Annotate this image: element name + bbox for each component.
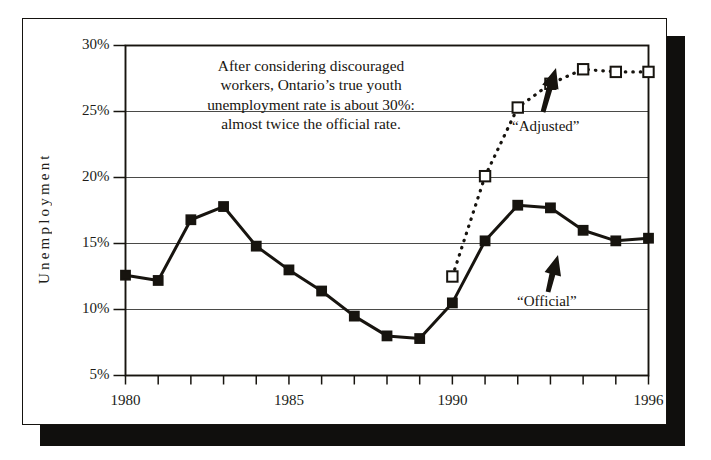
y-tick-label: 30% [54,36,110,53]
annotation-line: After considering discouraged [168,56,454,75]
series-label-official: “Official” [517,293,577,310]
annotation-line: workers, Ontario’s true youth [168,75,454,94]
x-tick-label: 1985 [254,392,324,409]
chart-figure: Unemployment 30%25%20%15%10%5% 198019851… [0,0,711,460]
annotation-line: unemployment rate is about 30%: [168,95,454,114]
annotation-line: almost twice the official rate. [168,114,454,133]
x-axis-ticks [126,376,649,385]
y-tick-label: 25% [54,102,110,119]
y-tick-label: 10% [54,300,110,317]
series-official [121,201,653,344]
x-tick-label: 1990 [417,392,487,409]
gridlines [126,112,649,310]
x-tick-label: 1996 [614,392,684,409]
y-tick-label: 5% [54,366,110,383]
x-tick-label: 1980 [91,392,161,409]
y-tick-label: 20% [54,168,110,185]
chart-annotation-text: After considering discouragedworkers, On… [168,56,454,134]
series-adjusted [447,64,654,282]
y-tick-label: 15% [54,234,110,251]
y-axis-title: Unemployment [36,108,62,328]
series-label-adjusted: “Adjusted” [512,118,579,135]
figure-scene: Unemployment 30%25%20%15%10%5% 198019851… [0,0,711,460]
y-axis-ticks [114,46,126,376]
callout-arrows [541,68,561,293]
